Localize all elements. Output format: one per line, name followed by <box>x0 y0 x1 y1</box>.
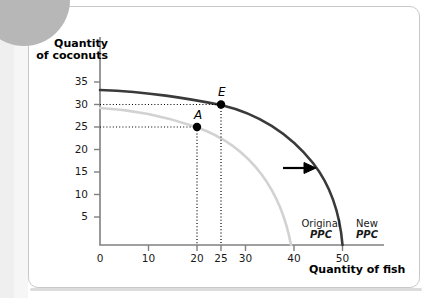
y-tick-label-15: 15 <box>66 166 88 177</box>
data-point-e <box>217 100 225 108</box>
point-label-a: A <box>194 109 202 122</box>
y-tick-label-5: 5 <box>66 211 88 222</box>
y-axis-ticks <box>94 82 100 217</box>
x-tick-label-50: 50 <box>331 253 355 264</box>
y-tick-label-25: 25 <box>66 121 88 132</box>
y-tick-label-10: 10 <box>66 189 88 200</box>
y-tick-label-35: 35 <box>66 76 88 87</box>
x-tick-label-40: 40 <box>282 253 306 264</box>
new-ppc-label: New PPC <box>348 219 386 241</box>
original-ppc-label-line1: Original <box>301 218 340 229</box>
x-tick-label-10: 10 <box>137 253 161 264</box>
x-tick-label-0: 0 <box>88 253 112 264</box>
axis-lines <box>100 37 384 245</box>
y-axis-title-line2: of coconuts <box>36 49 108 62</box>
y-tick-label-30: 30 <box>66 99 88 110</box>
shift-arrow-icon <box>283 163 316 174</box>
y-tick-label-20: 20 <box>66 144 88 155</box>
figure-screenshot: Quantity of coconuts Quantity of fish 35… <box>0 0 427 298</box>
original-ppc-label: Original PPC <box>296 219 346 241</box>
x-axis-ticks <box>149 245 343 251</box>
y-axis-title: Quantity of coconuts <box>18 38 108 62</box>
guides-point-a <box>100 127 197 245</box>
guides-point-e <box>100 105 221 246</box>
x-tick-label-20: 20 <box>185 253 209 264</box>
original-ppc-label-line2: PPC <box>296 230 346 241</box>
point-label-e: E <box>218 86 226 99</box>
data-point-a <box>193 123 201 131</box>
x-tick-label-30: 30 <box>234 253 258 264</box>
x-axis-title: Quantity of fish <box>309 264 405 276</box>
x-tick-label-25: 25 <box>209 253 233 264</box>
ppc-chart: Quantity of coconuts Quantity of fish 35… <box>0 0 427 298</box>
new-ppc-label-line2: PPC <box>348 230 386 241</box>
new-ppc-label-line1: New <box>356 218 378 229</box>
